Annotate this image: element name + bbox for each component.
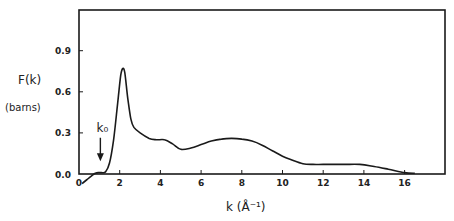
y-tick-label: 0.6 <box>55 87 71 97</box>
x-axis-ticks: 0246810121416 <box>76 170 411 188</box>
x-tick-label: 14 <box>358 178 371 188</box>
y-axis-unit-label: (barns) <box>5 102 41 113</box>
annotation-k0-label: k₀ <box>96 121 108 135</box>
x-tick-label: 2 <box>117 178 123 188</box>
x-axis-label: k (Å⁻¹) <box>226 199 265 214</box>
plot-border <box>79 10 445 174</box>
y-tick-label: 0.0 <box>55 170 71 180</box>
annotation-group: k₀ <box>96 121 108 162</box>
y-axis-label: F(k) <box>18 73 41 87</box>
y-tick-label: 0.9 <box>55 46 71 56</box>
series-line-fk <box>82 68 415 183</box>
x-tick-label: 4 <box>157 178 163 188</box>
y-tick-label: 0.3 <box>55 128 71 138</box>
x-tick-label: 16 <box>398 178 411 188</box>
x-tick-label: 0 <box>76 178 82 188</box>
plot-frame <box>79 10 445 174</box>
x-tick-label: 10 <box>276 178 289 188</box>
x-tick-label: 8 <box>239 178 245 188</box>
series-group <box>82 68 415 183</box>
annotation-arrow-head <box>97 153 104 161</box>
chart: 0246810121416 0.00.30.60.9 k₀ F(k) (barn… <box>0 0 454 221</box>
x-tick-label: 6 <box>198 178 204 188</box>
x-tick-label: 12 <box>317 178 330 188</box>
